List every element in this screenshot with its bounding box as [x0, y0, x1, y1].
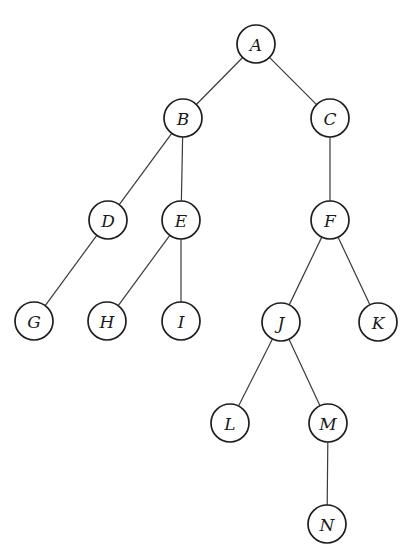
node-label: A — [248, 35, 262, 55]
node-a: A — [237, 25, 275, 63]
node-f: F — [311, 201, 349, 239]
edge-f-k — [338, 237, 370, 305]
edge-b-d — [119, 133, 171, 204]
node-label: N — [319, 515, 336, 535]
edge-j-m — [289, 339, 320, 406]
edge-f-j — [289, 237, 322, 305]
edge-a-b — [196, 58, 242, 105]
edge-d-g — [45, 235, 97, 305]
edge-m-n — [327, 442, 328, 505]
node-j: J — [262, 303, 300, 341]
tree-nodes: ABCDEFGHIJKLMN — [15, 25, 397, 543]
node-label: B — [176, 109, 190, 129]
edge-j-l — [239, 339, 273, 406]
edge-b-e — [181, 137, 182, 201]
node-label: F — [323, 211, 337, 231]
node-label: G — [27, 312, 41, 332]
node-label: C — [323, 109, 336, 129]
node-h: H — [88, 302, 126, 340]
node-d: D — [89, 201, 127, 239]
node-k: K — [359, 303, 397, 341]
node-g: G — [15, 302, 53, 340]
tree-diagram: ABCDEFGHIJKLMN — [0, 0, 410, 552]
node-label: K — [371, 313, 386, 333]
node-b: B — [164, 99, 202, 137]
node-label: M — [318, 414, 337, 434]
node-l: L — [211, 404, 249, 442]
edge-a-c — [269, 57, 316, 104]
node-label: H — [99, 312, 116, 332]
node-label: L — [223, 414, 235, 434]
node-m: M — [309, 404, 347, 442]
node-i: I — [162, 302, 200, 340]
node-e: E — [162, 201, 200, 239]
edge-e-h — [118, 235, 170, 305]
node-label: E — [174, 211, 188, 231]
node-n: N — [308, 505, 346, 543]
node-label: D — [100, 211, 115, 231]
node-c: C — [311, 99, 349, 137]
node-label: I — [177, 312, 185, 332]
